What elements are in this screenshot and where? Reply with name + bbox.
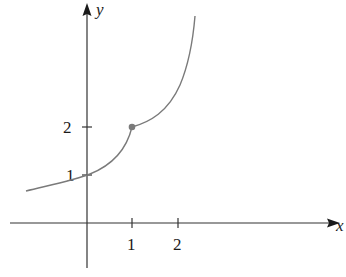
x-tick-label-1: 1 [127, 235, 136, 254]
chart: x y 1 2 1 2 [0, 0, 346, 277]
curve-left-branch [26, 127, 132, 191]
y-tick-label-2: 2 [63, 118, 72, 137]
curve-right-branch [132, 16, 195, 127]
y-axis-label: y [94, 0, 104, 19]
x-axis-label: x [335, 216, 344, 235]
data-point [129, 124, 136, 131]
x-tick-label-2: 2 [173, 235, 182, 254]
y-tick-label-1: 1 [66, 166, 75, 185]
